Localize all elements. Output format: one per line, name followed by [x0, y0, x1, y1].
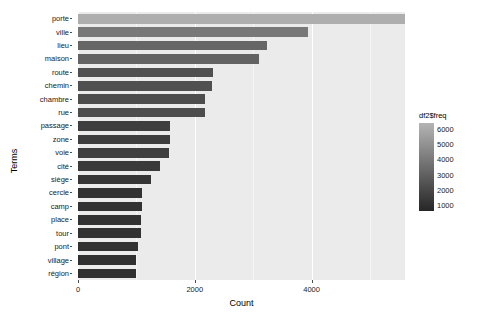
- y-axis-label-7: rue: [22, 106, 72, 119]
- x-axis-label-2: 4000: [303, 285, 320, 294]
- y-tick-mark: [70, 152, 73, 153]
- bar-rue: [78, 108, 205, 118]
- y-axis-label-11: cité: [22, 159, 72, 172]
- x-axis-label-0: 0: [76, 285, 80, 294]
- x-tick-mark: [312, 280, 313, 283]
- y-axis-label-2: lieu: [22, 39, 72, 52]
- y-axis-title: Terms: [6, 0, 22, 321]
- y-tick-mark: [70, 18, 73, 19]
- y-axis-label-4: route: [22, 66, 72, 79]
- x-axis-label-1: 2000: [186, 285, 203, 294]
- bar-row: [78, 79, 405, 92]
- legend-colorbar: [419, 123, 434, 211]
- bar-row: [78, 159, 405, 172]
- bar-row: [78, 200, 405, 213]
- y-tick-mark: [70, 179, 73, 180]
- bar-chambre: [78, 94, 205, 104]
- y-tick-mark: [70, 219, 73, 220]
- y-tick-mark: [70, 233, 73, 234]
- y-tick-mark: [70, 192, 73, 193]
- y-axis-label-9: zone: [22, 133, 72, 146]
- y-tick-mark: [70, 58, 73, 59]
- bar-porte: [78, 14, 405, 24]
- bar-row: [78, 186, 405, 199]
- y-tick-mark: [70, 112, 73, 113]
- y-tick-mark: [70, 166, 73, 167]
- bar-row: [78, 253, 405, 266]
- y-axis-label-17: pont: [22, 240, 72, 253]
- bar-voie: [78, 148, 169, 158]
- y-axis-tick-labels: portevillelieumaisonroutecheminchambreru…: [22, 12, 72, 280]
- bar-cité: [78, 161, 160, 171]
- legend-label-0: 6000: [437, 125, 454, 134]
- bar-row: [78, 267, 405, 280]
- legend-body: 600050004000300020001000: [419, 123, 481, 211]
- y-axis-label-10: voie: [22, 146, 72, 159]
- x-axis-tick-marks: [78, 280, 405, 284]
- y-tick-mark: [70, 125, 73, 126]
- y-axis-label-12: siège: [22, 173, 72, 186]
- plot-panel: [78, 12, 405, 280]
- y-axis-label-18: village: [22, 253, 72, 266]
- legend-label-2: 4000: [437, 155, 454, 164]
- y-tick-mark: [70, 273, 73, 274]
- y-axis-label-15: place: [22, 213, 72, 226]
- y-axis-label-19: région: [22, 267, 72, 280]
- y-axis-label-14: camp: [22, 200, 72, 213]
- y-tick-mark: [70, 32, 73, 33]
- bar-place: [78, 215, 141, 225]
- bar-zone: [78, 135, 170, 145]
- y-tick-mark: [70, 45, 73, 46]
- bar-row: [78, 12, 405, 25]
- bar-chemin: [78, 81, 212, 91]
- bar-row: [78, 146, 405, 159]
- y-tick-mark: [70, 72, 73, 73]
- bar-row: [78, 173, 405, 186]
- bar-row: [78, 106, 405, 119]
- bar-village: [78, 255, 136, 265]
- y-tick-mark: [70, 206, 73, 207]
- legend: df2$freq 600050004000300020001000: [419, 111, 481, 211]
- bar-row: [78, 92, 405, 105]
- x-tick-mark: [195, 280, 196, 283]
- y-axis-label-13: cercle: [22, 186, 72, 199]
- bar-row: [78, 39, 405, 52]
- bar-cercle: [78, 188, 142, 198]
- bar-series: [78, 12, 405, 280]
- bar-ville: [78, 27, 308, 37]
- y-tick-mark: [70, 99, 73, 100]
- bar-row: [78, 133, 405, 146]
- bar-route: [78, 68, 213, 78]
- y-axis-label-3: maison: [22, 52, 72, 65]
- y-axis-label-6: chambre: [22, 92, 72, 105]
- bar-row: [78, 52, 405, 65]
- legend-tick-labels: 600050004000300020001000: [437, 123, 471, 211]
- bar-camp: [78, 202, 142, 212]
- x-axis-title: Count: [78, 298, 405, 308]
- bar-région: [78, 269, 136, 279]
- bar-tour: [78, 228, 141, 238]
- y-tick-mark: [70, 139, 73, 140]
- bar-siège: [78, 175, 151, 185]
- y-tick-mark: [70, 260, 73, 261]
- bar-row: [78, 213, 405, 226]
- legend-label-3: 3000: [437, 170, 454, 179]
- x-tick-mark: [78, 280, 79, 283]
- y-tick-mark: [70, 246, 73, 247]
- y-axis-label-5: chemin: [22, 79, 72, 92]
- bar-row: [78, 227, 405, 240]
- bar-row: [78, 66, 405, 79]
- y-axis-label-8: passage: [22, 119, 72, 132]
- bar-row: [78, 119, 405, 132]
- y-axis-label-1: ville: [22, 25, 72, 38]
- bar-row: [78, 240, 405, 253]
- x-axis-tick-labels: 020004000: [0, 285, 484, 297]
- bar-lieu: [78, 41, 267, 51]
- legend-label-4: 2000: [437, 185, 454, 194]
- legend-label-5: 1000: [437, 200, 454, 209]
- bar-row: [78, 25, 405, 38]
- y-tick-mark: [70, 85, 73, 86]
- y-axis-label-16: tour: [22, 227, 72, 240]
- y-axis-label-0: porte: [22, 12, 72, 25]
- legend-title: df2$freq: [419, 111, 481, 120]
